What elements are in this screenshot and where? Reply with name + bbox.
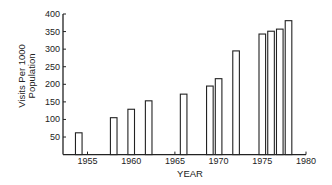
bars <box>75 21 291 155</box>
y-tick-label: 100 <box>45 114 60 124</box>
y-axis-label-line: Population <box>26 54 37 99</box>
x-tick-label: 1965 <box>165 156 185 166</box>
y-tick-label: 200 <box>45 79 60 89</box>
y-tick-label: 250 <box>45 62 60 72</box>
x-tick-label: 1960 <box>121 156 141 166</box>
x-tick-label: 1980 <box>296 156 316 166</box>
bar-1969 <box>207 86 214 155</box>
y-tick-label: 300 <box>45 44 60 54</box>
bar-1960 <box>128 109 135 154</box>
y-tick-label: 400 <box>45 9 60 19</box>
x-axis-label: YEAR <box>177 168 203 179</box>
bar-chart: 50100150200250300350400 1955196019651970… <box>0 0 332 185</box>
bar-1954 <box>75 133 82 155</box>
bar-1966 <box>180 94 187 154</box>
bar-1958 <box>110 118 117 155</box>
bar-1975 <box>259 34 266 155</box>
y-tick-label: 350 <box>45 27 60 37</box>
y-tick-label: 50 <box>50 132 60 142</box>
bar-1978 <box>285 21 292 155</box>
bar-1976 <box>268 31 275 154</box>
y-axis: 50100150200250300350400 <box>45 9 66 155</box>
y-axis-label: Visits Per 1000Population <box>16 44 37 108</box>
bar-1972 <box>233 51 240 155</box>
x-tick-label: 1975 <box>252 156 272 166</box>
y-tick-label: 150 <box>45 97 60 107</box>
x-tick-label: 1970 <box>209 156 229 166</box>
bar-1962 <box>145 101 152 155</box>
bar-1977 <box>276 29 283 154</box>
x-tick-label: 1955 <box>77 156 97 166</box>
bar-1970 <box>215 79 222 155</box>
